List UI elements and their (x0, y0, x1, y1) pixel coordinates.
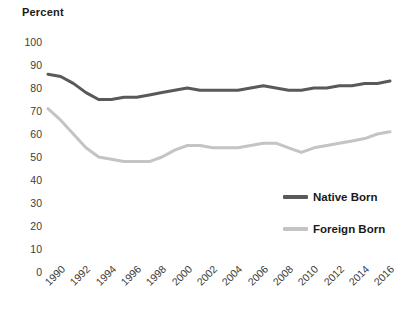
chart-container: Percent 1009080706050403020100 199019921… (0, 0, 411, 322)
chart-legend: Native Born Foreign Born (283, 186, 385, 250)
series-line-native-born (48, 74, 390, 99)
series-line-foreign-born (48, 109, 390, 162)
legend-swatch-foreign-born (283, 227, 308, 231)
legend-label-native-born: Native Born (313, 191, 378, 203)
legend-label-foreign-born: Foreign Born (313, 223, 385, 235)
legend-item-foreign-born: Foreign Born (283, 218, 385, 240)
legend-swatch-native-born (283, 195, 308, 199)
legend-item-native-born: Native Born (283, 186, 385, 208)
plot-area (0, 0, 411, 322)
